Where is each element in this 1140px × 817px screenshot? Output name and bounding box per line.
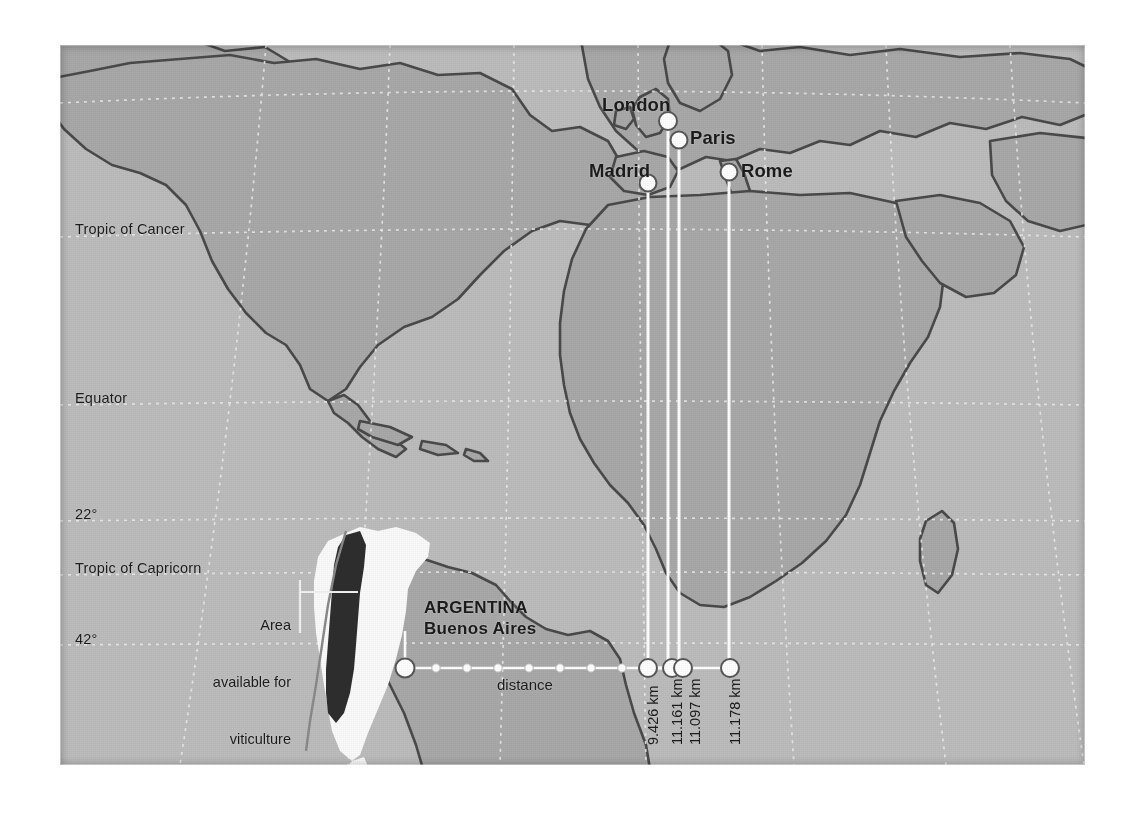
callout-line-1: Area bbox=[151, 616, 291, 635]
distance-tick-dot bbox=[463, 664, 471, 672]
city-label-london: London bbox=[602, 94, 670, 116]
marker-rome bbox=[721, 164, 738, 181]
viticulture-callout-text: Area available for viticulture bbox=[151, 578, 291, 787]
label-equator: Equator bbox=[75, 390, 127, 406]
distance-value-rome: 11.178 km bbox=[727, 678, 743, 745]
callout-line-3: viticulture bbox=[151, 730, 291, 749]
connector-rome bbox=[729, 172, 730, 668]
distance-tick-dot bbox=[525, 664, 533, 672]
marker-buenos-aires bbox=[396, 659, 415, 678]
city-label-rome: Rome bbox=[741, 160, 793, 182]
marker-distance-london bbox=[639, 659, 657, 677]
distance-tick-dot bbox=[618, 664, 626, 672]
callout-line-2: available for bbox=[151, 673, 291, 692]
distance-value-madrid: 11.097 km bbox=[687, 678, 703, 745]
label-tropic-of-capricorn: Tropic of Capricorn bbox=[75, 560, 202, 576]
distance-tick-dot bbox=[494, 664, 502, 672]
city-label-paris: Paris bbox=[690, 127, 736, 149]
world-distance-map-figure: Tropic of Cancer Equator 22° Tropic of C… bbox=[0, 0, 1140, 817]
capital-label-buenos-aires: Buenos Aires bbox=[424, 619, 537, 639]
label-tropic-of-cancer: Tropic of Cancer bbox=[75, 221, 185, 237]
marker-paris bbox=[671, 132, 688, 149]
distance-value-london: 9.426 km bbox=[645, 685, 661, 745]
distance-axis-label: distance bbox=[497, 676, 553, 693]
label-latitude-22: 22° bbox=[75, 506, 98, 522]
marker-distance-madrid bbox=[674, 659, 692, 677]
label-latitude-42: 42° bbox=[75, 631, 98, 647]
distance-value-paris: 11.161 km bbox=[669, 678, 685, 745]
country-label-argentina: ARGENTINA bbox=[424, 598, 528, 618]
city-label-madrid: Madrid bbox=[589, 160, 650, 182]
distance-tick-dot bbox=[556, 664, 564, 672]
distance-tick-dot bbox=[432, 664, 440, 672]
distance-tick-dot bbox=[587, 664, 595, 672]
marker-distance-rome bbox=[721, 659, 739, 677]
